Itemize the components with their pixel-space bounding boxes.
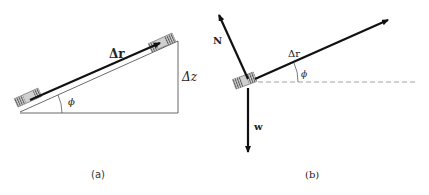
figure-b: N Δr ϕ w (b) [213, 15, 416, 180]
incline-surface [20, 41, 178, 112]
caption-b: (b) [305, 169, 319, 180]
angle-label: ϕ [68, 96, 75, 107]
angle-arc-b [294, 63, 298, 82]
displacement-arrow-b [255, 20, 388, 79]
weight-label: w [253, 121, 263, 132]
angle-arc [58, 95, 62, 113]
height-label: Δz [181, 70, 198, 84]
angle-label-b: ϕ [301, 69, 307, 79]
normal-force-label: N [213, 35, 222, 46]
physics-diagram: Δr Δz ϕ (a) N Δr ϕ w (b) [0, 0, 429, 195]
figure-a: Δr Δz ϕ (a) [14, 33, 197, 180]
block-top [148, 33, 175, 52]
block [233, 72, 257, 89]
caption-a: (a) [91, 169, 105, 180]
displacement-label: Δr [109, 47, 125, 61]
displacement-label-b: Δr [288, 48, 300, 59]
displacement-arrow [30, 43, 160, 100]
normal-force-arrow [219, 15, 248, 79]
